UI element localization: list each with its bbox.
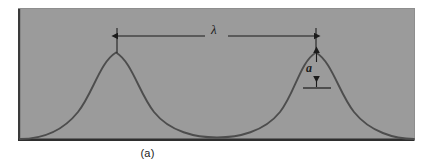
panel-top-edge	[18, 8, 415, 9]
panel-right-edge	[414, 8, 415, 141]
amplitude-symbol-label: a	[306, 62, 312, 74]
figure-caption: (a)	[0, 147, 295, 159]
panel-left-edge	[18, 8, 20, 141]
wavelength-symbol-label: λ	[211, 23, 217, 36]
panel-bottom-edge	[18, 139, 415, 142]
wave-figure: λ a (a)	[0, 0, 433, 163]
